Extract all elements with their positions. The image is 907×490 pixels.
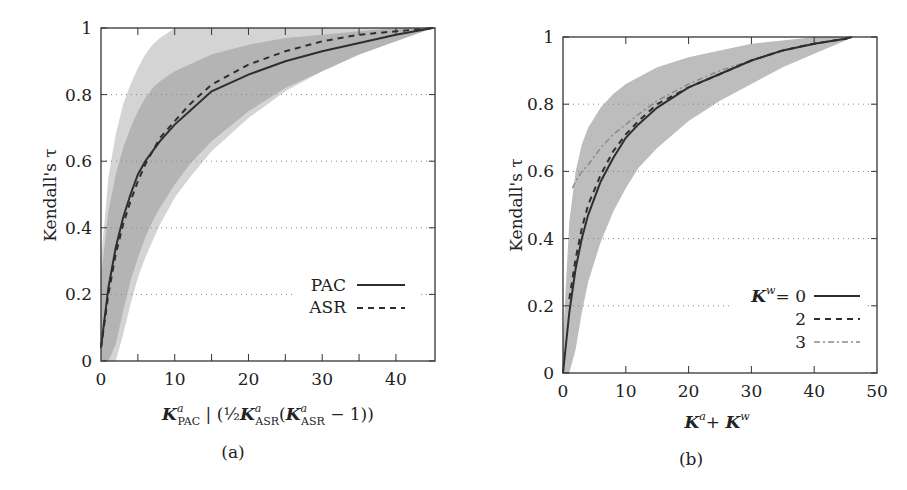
x-tick-label: 20 — [238, 369, 260, 389]
x-tick-label: 10 — [615, 381, 637, 401]
y-tick-label: 1 — [81, 18, 92, 38]
y-tick-label: 0.8 — [65, 85, 92, 105]
chart-a-y-tick-labels: 00.20.40.60.81 — [65, 18, 92, 371]
y-tick-label: 0.2 — [65, 284, 92, 304]
y-tick-label: 1 — [543, 27, 554, 47]
y-tick-label: 0 — [543, 363, 554, 383]
chart-b-y-tick-labels: 00.20.40.60.81 — [527, 27, 554, 383]
x-tick-label: 10 — [164, 369, 186, 389]
chart-a-legend: PAC ASR — [295, 273, 417, 325]
legend-label-pac: PAC — [311, 275, 346, 295]
figure: 00.20.40.60.81 010203040 Kendall's τ KaP… — [0, 0, 907, 490]
chart-a: 00.20.40.60.81 010203040 Kendall's τ KaP… — [40, 18, 435, 462]
chart-a-x-tick-labels: 010203040 — [96, 369, 407, 389]
x-tick-label: 40 — [803, 381, 825, 401]
legend-title-kw: Kw= 0 — [750, 284, 806, 306]
k-symbol: K — [161, 404, 178, 424]
legend-label-asr: ASR — [308, 297, 347, 317]
legend-label-kw3: 3 — [795, 332, 806, 352]
y-tick-label: 0.8 — [527, 94, 554, 114]
y-tick-label: 0.6 — [527, 161, 554, 181]
y-tick-label: 0.2 — [527, 296, 554, 316]
chart-a-y-axis-title: Kendall's τ — [40, 148, 60, 241]
x-tick-label: 20 — [678, 381, 700, 401]
chart-b-x-axis-title: Ka+ Kw — [683, 410, 750, 432]
y-tick-label: 0.4 — [65, 218, 92, 238]
chart-b-legend: Kw= 0 2 3 — [730, 280, 865, 358]
x-tick-label: 40 — [385, 369, 407, 389]
y-tick-label: 0 — [81, 351, 92, 371]
chart-b-x-tick-labels: 01020304050 — [558, 381, 888, 401]
chart-a-caption: (a) — [221, 442, 244, 462]
chart-a-x-axis-title: KaPAC | (½KaASR(KaASR − 1)) — [161, 402, 374, 428]
x-tick-label: 0 — [96, 369, 107, 389]
legend-label-kw2: 2 — [795, 309, 806, 329]
chart-b: 00.20.40.60.81 01020304050 Kendall's τ K… — [506, 27, 888, 469]
chart-b-y-axis-title: Kendall's τ — [506, 158, 526, 251]
x-tick-label: 30 — [311, 369, 333, 389]
y-tick-label: 0.6 — [65, 151, 92, 171]
x-tick-label: 50 — [866, 381, 888, 401]
chart-b-caption: (b) — [679, 449, 703, 469]
y-tick-label: 0.4 — [527, 229, 554, 249]
x-tick-label: 0 — [558, 381, 569, 401]
x-tick-label: 30 — [741, 381, 763, 401]
